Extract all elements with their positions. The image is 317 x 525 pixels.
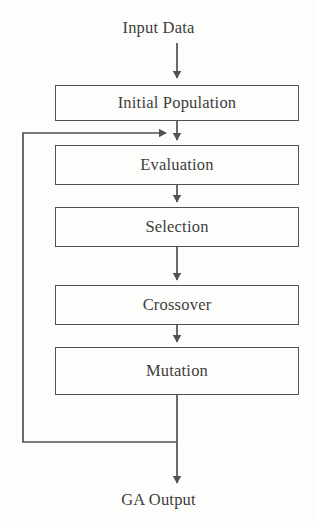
flowchart-diagram: Input Data Initial Population Evaluation… [0, 0, 317, 525]
node-initial-population-label: Initial Population [118, 95, 237, 112]
input-data-label: Input Data [0, 20, 317, 37]
node-selection-label: Selection [145, 219, 208, 236]
node-initial-population: Initial Population [55, 85, 299, 121]
node-evaluation: Evaluation [55, 145, 299, 185]
node-evaluation-label: Evaluation [140, 157, 213, 174]
node-mutation: Mutation [55, 347, 299, 395]
node-selection: Selection [55, 207, 299, 247]
node-mutation-label: Mutation [146, 363, 208, 380]
flowchart-connectors [0, 0, 317, 525]
node-crossover: Crossover [55, 285, 299, 325]
node-crossover-label: Crossover [143, 297, 212, 314]
ga-output-label: GA Output [0, 492, 317, 509]
